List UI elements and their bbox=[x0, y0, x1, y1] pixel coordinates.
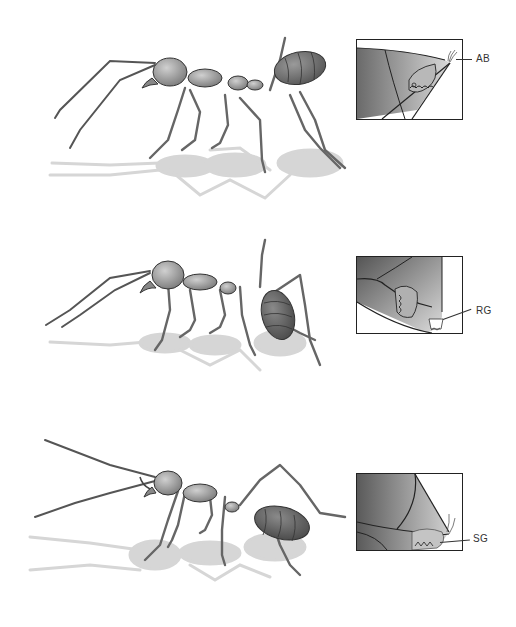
abdomen-tip-detail bbox=[357, 40, 462, 119]
panel-bottom: SG bbox=[0, 415, 516, 627]
panel-middle: RG bbox=[0, 215, 516, 415]
inset-abdomen-tip-rg bbox=[356, 256, 463, 334]
gland-label-rg: RG bbox=[476, 305, 492, 316]
panel-top: AB bbox=[0, 0, 516, 215]
gland-label-ab: AB bbox=[476, 53, 490, 64]
ant-illustration-middle bbox=[0, 215, 356, 415]
abdomen-tip-detail bbox=[357, 474, 462, 550]
ant-illustration-bottom bbox=[0, 415, 356, 627]
abdomen-tip-detail bbox=[357, 257, 462, 333]
ant-illustration-top bbox=[0, 0, 356, 215]
label-leader-ab bbox=[456, 59, 472, 60]
inset-abdomen-tip-sg bbox=[356, 473, 463, 551]
gland-label-sg: SG bbox=[473, 533, 488, 544]
inset-abdomen-tip-ab bbox=[356, 39, 463, 120]
